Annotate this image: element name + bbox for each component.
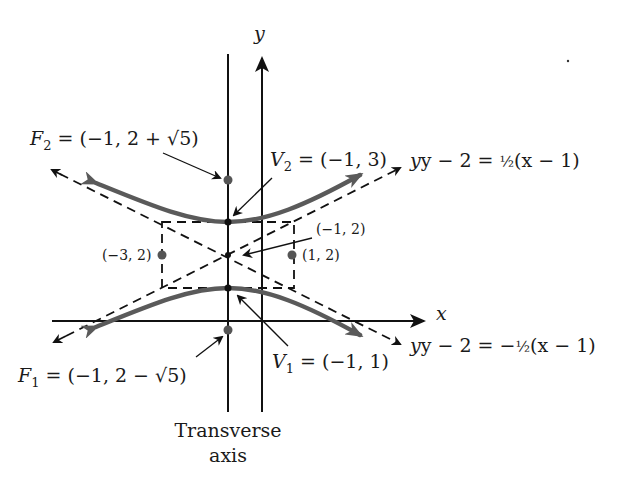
asymptote-negative-tail <box>52 170 62 175</box>
v2-pointer-arrow <box>234 178 272 215</box>
co-vertex-left-point <box>158 251 167 260</box>
focus-f2-point <box>224 176 233 185</box>
hyperbola-figure: x y F2 = (−1, 2 + √5) V2 = (−1, 3) yy − … <box>0 0 619 487</box>
vertex-v1-point <box>225 285 232 292</box>
focus-f2-label: F2 = (−1, 2 + √5) <box>29 127 199 153</box>
center-label: (−1, 2) <box>316 221 365 237</box>
transverse-axis-caption-line1: Transverse <box>174 419 281 441</box>
transverse-axis-caption-line2: axis <box>209 444 247 466</box>
focus-f1-point <box>224 326 233 335</box>
f1-pointer-arrow <box>196 337 222 357</box>
stray-dot <box>567 60 569 62</box>
vertex-v2-label: V2 = (−1, 3) <box>270 148 387 174</box>
vertex-v2-point <box>225 219 232 226</box>
vertex-v1-label: V1 = (−1, 1) <box>272 350 389 376</box>
asymptote-positive-tail <box>54 336 66 342</box>
asymptote-positive-equation: yy − 2 = ½(x − 1) <box>409 149 580 171</box>
f2-pointer-arrow <box>163 153 220 178</box>
co-vertex-right-label: (1, 2) <box>302 247 340 263</box>
co-vertex-left-label: (−3, 2) <box>102 247 151 263</box>
co-vertex-right-point <box>288 251 297 260</box>
center-point <box>225 252 231 258</box>
x-axis-label: x <box>436 302 447 324</box>
focus-f1-label: F1 = (−1, 2 − √5) <box>17 364 187 390</box>
asymptote-negative-equation: yy − 2 = −½(x − 1) <box>409 334 596 356</box>
y-axis-label: y <box>253 22 265 44</box>
